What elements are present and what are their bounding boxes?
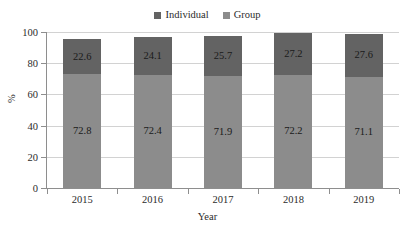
y-tick-label: 0 <box>33 183 38 194</box>
y-tick-mark <box>41 157 46 158</box>
x-tick-label: 2016 <box>142 194 163 205</box>
x-tick-mark <box>117 189 118 194</box>
legend-swatch-individual <box>154 12 161 19</box>
chart-legend: Individual Group <box>0 7 415 23</box>
stacked-bar-chart: Individual Group 020406080100 % 22.672.8… <box>0 0 415 232</box>
y-tick-mark <box>41 63 46 64</box>
legend-item-group[interactable]: Group <box>223 10 261 21</box>
y-tick-mark <box>41 126 46 127</box>
bar-segment-group[interactable]: 72.8 <box>63 74 101 188</box>
bar-group[interactable]: 24.172.4 <box>134 37 172 188</box>
x-axis-title: Year <box>0 211 415 222</box>
bar-value-label: 71.1 <box>355 127 373 138</box>
x-tick-label: 2017 <box>213 194 234 205</box>
bar-value-label: 27.2 <box>284 49 302 60</box>
legend-label-group: Group <box>234 10 261 21</box>
y-tick-mark <box>41 32 46 33</box>
x-tick-mark <box>399 189 400 194</box>
bar-segment-individual[interactable]: 27.2 <box>274 33 312 75</box>
y-tick-mark <box>41 188 46 189</box>
y-tick-label: 60 <box>28 89 39 100</box>
bar-value-label: 72.2 <box>284 126 302 137</box>
y-tick-label: 100 <box>22 27 38 38</box>
bar-segment-individual[interactable]: 22.6 <box>63 39 101 74</box>
legend-label-individual: Individual <box>165 10 208 21</box>
x-tick-label: 2019 <box>353 194 374 205</box>
x-tick-label: 2015 <box>72 194 93 205</box>
bar-group[interactable]: 25.771.9 <box>204 36 242 188</box>
bars-layer: 22.672.824.172.425.771.927.272.227.671.1 <box>47 32 399 188</box>
x-tick-mark <box>47 189 48 194</box>
x-tick-mark <box>188 189 189 194</box>
bar-segment-individual[interactable]: 24.1 <box>134 37 172 75</box>
bar-value-label: 24.1 <box>143 51 161 62</box>
bar-group[interactable]: 22.672.8 <box>63 39 101 188</box>
y-axis-title: % <box>6 94 17 103</box>
x-tick-mark <box>329 189 330 194</box>
legend-item-individual[interactable]: Individual <box>154 10 208 21</box>
bar-segment-group[interactable]: 72.2 <box>274 75 312 188</box>
bar-segment-individual[interactable]: 25.7 <box>204 36 242 76</box>
y-tick-mark <box>41 94 46 95</box>
y-tick-label: 40 <box>28 120 39 131</box>
bar-value-label: 27.6 <box>355 50 373 61</box>
bar-value-label: 71.9 <box>214 127 232 138</box>
bar-segment-individual[interactable]: 27.6 <box>345 34 383 77</box>
bar-value-label: 25.7 <box>214 51 232 62</box>
bar-group[interactable]: 27.272.2 <box>274 33 312 188</box>
bar-segment-group[interactable]: 71.1 <box>345 77 383 188</box>
x-tick-label: 2018 <box>283 194 304 205</box>
legend-swatch-group <box>223 12 230 19</box>
bar-value-label: 72.8 <box>73 126 91 137</box>
bar-group[interactable]: 27.671.1 <box>345 34 383 188</box>
bar-value-label: 22.6 <box>73 52 91 63</box>
bar-segment-group[interactable]: 71.9 <box>204 76 242 188</box>
bar-segment-group[interactable]: 72.4 <box>134 75 172 188</box>
x-tick-mark <box>258 189 259 194</box>
y-tick-label: 80 <box>28 58 39 69</box>
bar-value-label: 72.4 <box>143 126 161 137</box>
x-axis-line <box>46 188 399 189</box>
y-tick-label: 20 <box>28 151 39 162</box>
